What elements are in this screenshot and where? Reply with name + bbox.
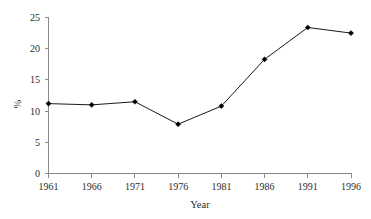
x-tick-label-1996: 1996: [341, 181, 361, 192]
x-tick-label-1976: 1976: [168, 181, 188, 192]
y-tick-label-20: 20: [30, 43, 40, 54]
y-tick-label-25: 25: [30, 12, 40, 23]
chart-container: 0 5 10 15 20 25 % 1961 1966 1971 1976 19…: [0, 0, 371, 219]
x-axis-title: Year: [190, 199, 210, 210]
line-chart-svg: 0 5 10 15 20 25 % 1961 1966 1971 1976 19…: [0, 0, 371, 219]
x-tick-label-1991: 1991: [298, 181, 318, 192]
x-tick-label-1961: 1961: [39, 181, 59, 192]
x-tick-label-1981: 1981: [211, 181, 231, 192]
y-axis-title: %: [12, 99, 23, 108]
y-tick-label-10: 10: [30, 106, 40, 117]
y-tick-label-5: 5: [35, 137, 40, 148]
x-tick-label-1971: 1971: [125, 181, 145, 192]
x-tick-label-1966: 1966: [82, 181, 102, 192]
y-tick-label-15: 15: [30, 74, 40, 85]
y-tick-label-0: 0: [35, 168, 40, 179]
x-tick-label-1986: 1986: [255, 181, 275, 192]
